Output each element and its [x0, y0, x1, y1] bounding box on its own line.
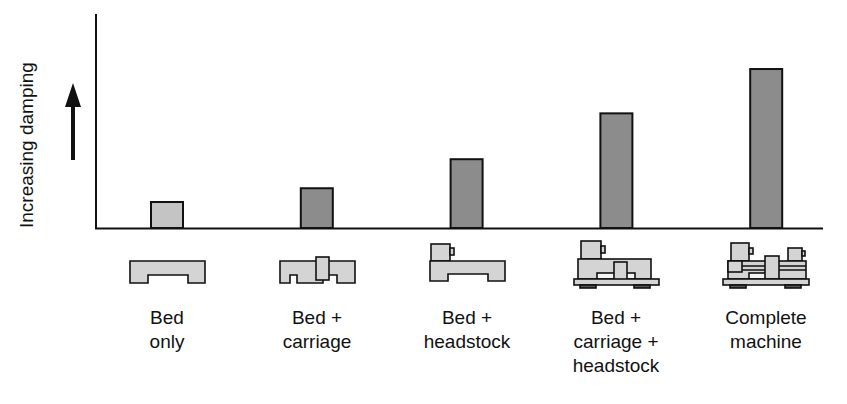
up-arrow-icon	[65, 83, 81, 160]
bar-bed-headstock	[451, 159, 483, 228]
bars	[151, 69, 782, 228]
y-axis-label: Increasing damping	[12, 8, 42, 228]
lathe-bed-headstock-icon	[430, 244, 505, 281]
lathe-complete-machine-icon	[723, 243, 809, 288]
category-label-complete-machine: Complete machine	[691, 306, 841, 354]
bar-bed-only	[151, 202, 183, 228]
lathe-bed-carriage-icon	[280, 257, 355, 283]
category-label-bed-carriage: Bed + carriage	[242, 306, 392, 354]
category-label-bed-only: Bed only	[92, 306, 242, 354]
bar-bed-carriage-headstock	[600, 113, 632, 228]
bar-complete-machine	[750, 69, 782, 228]
category-label-bed-carriage-headstock: Bed + carriage + headstock	[541, 306, 691, 378]
category-label-bed-headstock: Bed + headstock	[392, 306, 542, 354]
bar-bed-carriage	[301, 188, 333, 228]
lathe-bed-icon	[130, 261, 205, 283]
lathe-bed-carriage-headstock-icon	[574, 241, 659, 288]
